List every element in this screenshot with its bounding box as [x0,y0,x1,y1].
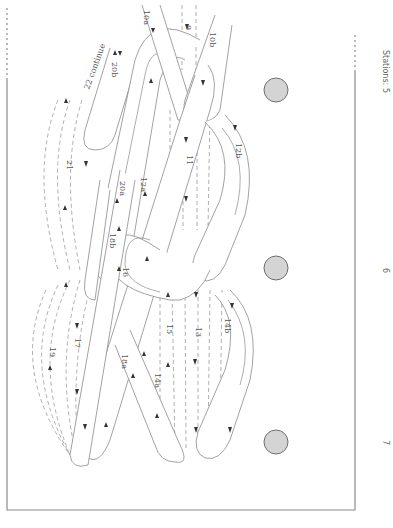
label-12b: 12b [234,143,243,158]
station-labels: Stations: 5 6 7 [381,50,390,445]
station-hole-6 [264,256,288,280]
label-16: 16 [121,267,130,277]
stitch-diagram: Stations: 5 6 7 [0,0,393,528]
station-label-6: 6 [381,268,390,273]
label-10b: 10b [208,32,217,47]
station-holes [264,78,288,454]
label-13: 13 [194,327,203,337]
label-14b: 14b [223,318,232,333]
label-20a: 20a [118,181,127,196]
label-18a: 18a [120,354,129,369]
label-21: 21 [65,160,74,170]
label-14a: 14a [153,373,162,388]
label-17: 17 [73,338,82,348]
station-label-5: 5 [381,88,390,93]
solid-strands [70,5,253,466]
label-15: 15 [165,324,174,334]
station-hole-5 [264,78,288,102]
label-19: 19 [48,347,57,357]
label-9: 9 [184,25,193,30]
station-hole-7 [264,430,288,454]
stations-title: Stations: [381,50,390,85]
label-12a: 12a [139,177,148,192]
label-11: 11 [185,155,194,165]
label-20b: 20b [110,62,119,77]
label-18b: 18b [108,233,117,248]
label-10a: 10a [142,10,151,25]
station-label-7: 7 [381,440,390,445]
